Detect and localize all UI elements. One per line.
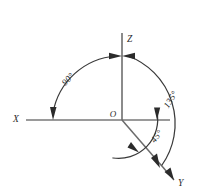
angle-45-arrowhead-x [154, 108, 160, 121]
angle-135-label: 135° [161, 89, 179, 110]
y-axis-label: Y [178, 178, 185, 188]
origin-label: O [110, 109, 117, 119]
diagram-canvas: X Z Y O 90° 135° 45° [0, 0, 200, 195]
z-axis-label: Z [127, 34, 133, 44]
angle-45-arrowhead-y [128, 142, 140, 153]
angle-90-arrowhead-z [109, 53, 122, 60]
angle-90-arrowhead-x [50, 107, 57, 120]
axis-angle-diagram: X Z Y O 90° 135° 45° [0, 0, 200, 195]
angle-90-label: 90° [60, 71, 77, 88]
x-axis-label: X [12, 114, 20, 124]
y-axis-arrowhead [165, 168, 175, 181]
angle-135-arrowhead-z [122, 53, 135, 60]
